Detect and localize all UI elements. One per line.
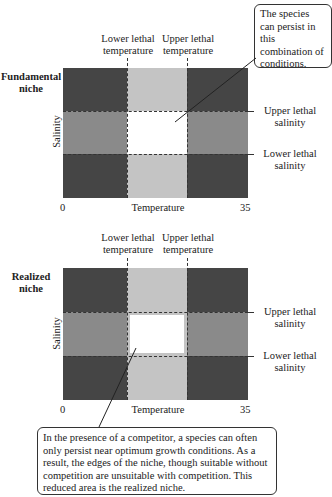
pointer-lines (0, 0, 332, 497)
fundamental-pointer (175, 58, 256, 122)
realized-pointer (99, 348, 136, 427)
